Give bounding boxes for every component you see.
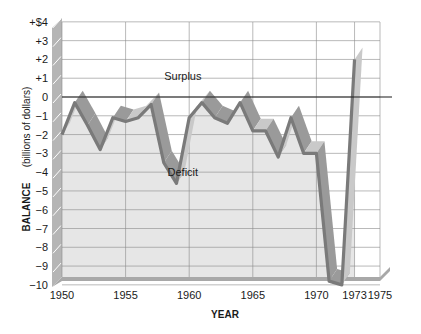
x-tick-label: 1950 — [50, 289, 74, 301]
y-tick-label: −7 — [35, 223, 48, 235]
y-tick-label: −5 — [35, 185, 48, 197]
wall-face — [52, 18, 62, 287]
surplus-annotation: Surplus — [164, 70, 202, 82]
y-tick-label: +1 — [35, 72, 48, 84]
x-axis-tick-labels: 1950195519601965197019731975 — [50, 289, 392, 301]
y-tick-label: −10 — [29, 279, 48, 291]
x-tick-label: 1955 — [113, 289, 137, 301]
y-tick-label: +$4 — [29, 16, 48, 28]
y-tick-label: −3 — [35, 147, 48, 159]
y-tick-label: −9 — [35, 260, 48, 272]
y-tick-label: −4 — [35, 166, 48, 178]
y-axis-title-unit: (billions of dollars) — [21, 87, 32, 168]
left-3d-wall — [52, 18, 62, 291]
x-tick-label: 1965 — [241, 289, 265, 301]
y-axis-title: BALANCE (billions of dollars) — [21, 87, 32, 232]
y-tick-label: +3 — [35, 35, 48, 47]
x-tick-label: 1975 — [368, 289, 392, 301]
x-tick-label: 1970 — [304, 289, 328, 301]
y-axis-title-bold: BALANCE — [21, 182, 32, 231]
x-tick-label: 1973 — [342, 289, 366, 301]
balance-line-chart: +$4+3+2+10−1−2−3−4−5−6−7−8−9−10 19501955… — [0, 0, 421, 334]
y-tick-label: −2 — [35, 129, 48, 141]
y-tick-label: 0 — [42, 91, 48, 103]
y-tick-label: −1 — [35, 110, 48, 122]
x-tick-label: 1960 — [177, 289, 201, 301]
y-axis-tick-labels: +$4+3+2+10−1−2−3−4−5−6−7−8−9−10 — [29, 16, 48, 291]
x-axis-title: YEAR — [211, 309, 240, 320]
y-tick-label: +2 — [35, 53, 48, 65]
y-tick-label: −6 — [35, 204, 48, 216]
y-tick-label: −8 — [35, 241, 48, 253]
deficit-annotation: Deficit — [168, 166, 199, 178]
